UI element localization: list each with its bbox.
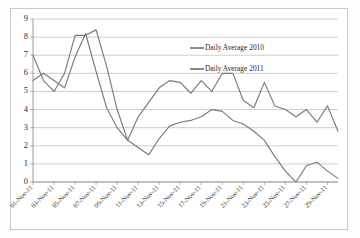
y-axis-tick-label: 1	[24, 158, 28, 168]
y-axis-tick-label: 6	[24, 67, 28, 77]
legend-label-2: Daily Average 2011	[205, 64, 264, 73]
data-series	[33, 30, 338, 182]
x-axis-labels: 01-Nov-1103-Nov-1105-Nov-1107-Nov-1109-N…	[8, 184, 328, 209]
y-axis-tick-label: 8	[24, 31, 28, 41]
y-axis-tick-label: 5	[24, 85, 28, 95]
legend-label-1: Daily Average 2010	[205, 43, 264, 52]
y-axis-tick-label: 4	[24, 104, 29, 114]
y-axis-tick-label: 2	[24, 140, 28, 150]
axis-lines	[33, 19, 338, 182]
y-axis-tick-label: 3	[24, 122, 28, 132]
chart-legend: Daily Average 2010Daily Average 2011	[190, 43, 264, 73]
y-axis-tick-label: 9	[24, 13, 28, 23]
line-chart: 0123456789 01-Nov-1103-Nov-1105-Nov-1107…	[0, 0, 360, 238]
y-axis-tick-label: 7	[24, 49, 28, 59]
y-axis-labels: 0123456789	[24, 13, 29, 186]
series-line-1	[33, 30, 338, 140]
chart-screenshot: 0123456789 01-Nov-1103-Nov-1105-Nov-1107…	[0, 0, 360, 238]
chart-plot-area: 0123456789 01-Nov-1103-Nov-1105-Nov-1107…	[0, 0, 360, 238]
gridlines	[30, 19, 338, 182]
series-line-2	[33, 33, 338, 182]
x-axis-tick-label: 29-Nov-11	[303, 184, 328, 209]
